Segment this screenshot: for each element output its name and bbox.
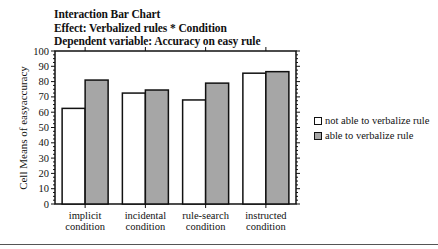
legend-item-not-able: not able to verbalize rule <box>314 113 429 128</box>
y-tick-label: 80 <box>39 76 50 87</box>
legend-swatch-grey-icon <box>314 132 322 140</box>
x-category-label: rule-search <box>182 210 229 221</box>
x-category-label: implicit <box>69 210 102 221</box>
bar-not-able <box>183 100 206 204</box>
y-tick-label: 0 <box>44 199 49 210</box>
x-category-label: condition <box>126 221 166 232</box>
y-tick-label: 60 <box>39 107 50 118</box>
y-tick-label: 90 <box>39 61 50 72</box>
bar-not-able <box>243 73 266 204</box>
bar-able <box>206 83 229 204</box>
y-tick-label: 30 <box>39 153 50 164</box>
bottom-divider <box>0 244 438 245</box>
legend-label: not able to verbalize rule <box>325 113 429 128</box>
legend-label: able to verbalize rule <box>325 128 413 143</box>
bar-able <box>266 72 289 204</box>
bar-not-able <box>122 93 145 204</box>
legend-swatch-white-icon <box>314 117 322 125</box>
x-category-label: condition <box>246 221 286 232</box>
y-tick-label: 70 <box>39 91 50 102</box>
x-category-label: condition <box>186 221 226 232</box>
bar-able <box>85 80 108 204</box>
y-tick-label: 20 <box>39 168 50 179</box>
y-tick-label: 50 <box>39 122 50 133</box>
y-tick-label: 40 <box>39 137 50 148</box>
bar-able <box>145 90 168 204</box>
y-tick-label: 10 <box>39 183 50 194</box>
legend: not able to verbalize rule able to verba… <box>314 113 429 143</box>
bar-not-able <box>62 108 85 204</box>
legend-item-able: able to verbalize rule <box>314 128 429 143</box>
x-category-label: condition <box>65 221 105 232</box>
x-category-label: instructed <box>245 210 287 221</box>
x-category-label: incidental <box>125 210 166 221</box>
y-tick-label: 100 <box>33 46 49 57</box>
